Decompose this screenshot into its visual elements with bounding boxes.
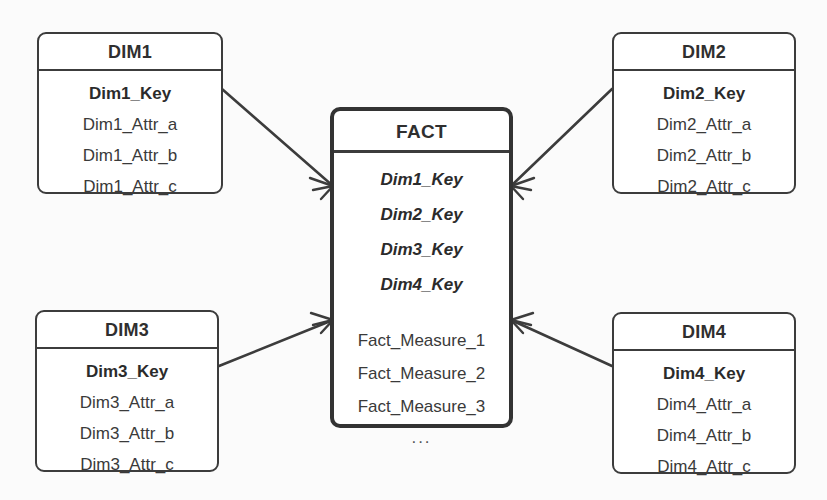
relationship-line-dim3-fact	[219, 320, 333, 366]
entity-fields-fact: Dim1_Key Dim2_Key Dim3_Key Dim4_Key Fact…	[334, 153, 509, 453]
field-attr-dim2-c: Dim2_Attr_c	[614, 171, 794, 202]
field-attr-dim2-b: Dim2_Attr_b	[614, 140, 794, 171]
relationship-line-dim1-fact	[222, 89, 333, 186]
field-attr-dim2-a: Dim2_Attr_a	[614, 109, 794, 140]
field-fk-dim4-key: Dim4_Key	[334, 267, 509, 302]
field-measure-2: Fact_Measure_2	[334, 357, 509, 390]
field-fk-dim1-key: Dim1_Key	[334, 162, 509, 197]
field-attr-dim1-b: Dim1_Attr_b	[39, 140, 221, 171]
field-fk-dim3-key: Dim3_Key	[334, 232, 509, 267]
field-measure-ellipsis: ...	[334, 423, 509, 453]
entity-title-dim1: DIM1	[39, 34, 221, 71]
field-attr-dim3-c: Dim3_Attr_c	[37, 449, 217, 480]
entity-title-fact: FACT	[334, 111, 509, 153]
entity-dim1[interactable]: DIM1 Dim1_Key Dim1_Attr_a Dim1_Attr_b Di…	[37, 32, 223, 194]
field-attr-dim4-c: Dim4_Attr_c	[614, 451, 794, 482]
entity-fact[interactable]: FACT Dim1_Key Dim2_Key Dim3_Key Dim4_Key…	[330, 107, 513, 428]
entity-fields-dim1: Dim1_Key Dim1_Attr_a Dim1_Attr_b Dim1_At…	[39, 71, 221, 202]
field-attr-dim3-b: Dim3_Attr_b	[37, 418, 217, 449]
field-measure-3: Fact_Measure_3	[334, 390, 509, 423]
crowsfoot-dim4	[511, 313, 533, 333]
entity-title-dim3: DIM3	[37, 312, 217, 349]
field-key-dim1: Dim1_Key	[39, 78, 221, 109]
field-attr-dim1-c: Dim1_Attr_c	[39, 171, 221, 202]
field-key-dim4: Dim4_Key	[614, 358, 794, 389]
field-attr-dim3-a: Dim3_Attr_a	[37, 387, 217, 418]
entity-fields-dim4: Dim4_Key Dim4_Attr_a Dim4_Attr_b Dim4_At…	[614, 351, 794, 482]
relationship-line-dim2-fact	[511, 89, 612, 186]
entity-dim2[interactable]: DIM2 Dim2_Key Dim2_Attr_a Dim2_Attr_b Di…	[612, 32, 796, 194]
entity-title-dim2: DIM2	[614, 34, 794, 71]
entity-fields-dim2: Dim2_Key Dim2_Attr_a Dim2_Attr_b Dim2_At…	[614, 71, 794, 202]
field-fk-dim2-key: Dim2_Key	[334, 197, 509, 232]
field-key-dim3: Dim3_Key	[37, 356, 217, 387]
crowsfoot-dim2	[511, 178, 534, 199]
entity-dim3[interactable]: DIM3 Dim3_Key Dim3_Attr_a Dim3_Attr_b Di…	[35, 310, 219, 472]
relationship-line-dim4-fact	[511, 320, 612, 366]
field-attr-dim1-a: Dim1_Attr_a	[39, 109, 221, 140]
entity-title-dim4: DIM4	[614, 314, 794, 351]
field-attr-dim4-a: Dim4_Attr_a	[614, 389, 794, 420]
diagram-canvas: DIM1 Dim1_Key Dim1_Attr_a Dim1_Attr_b Di…	[0, 0, 827, 500]
field-measure-1: Fact_Measure_1	[334, 324, 509, 357]
entity-dim4[interactable]: DIM4 Dim4_Key Dim4_Attr_a Dim4_Attr_b Di…	[612, 312, 796, 474]
fact-section-gap	[334, 302, 509, 324]
field-key-dim2: Dim2_Key	[614, 78, 794, 109]
field-attr-dim4-b: Dim4_Attr_b	[614, 420, 794, 451]
entity-fields-dim3: Dim3_Key Dim3_Attr_a Dim3_Attr_b Dim3_At…	[37, 349, 217, 480]
